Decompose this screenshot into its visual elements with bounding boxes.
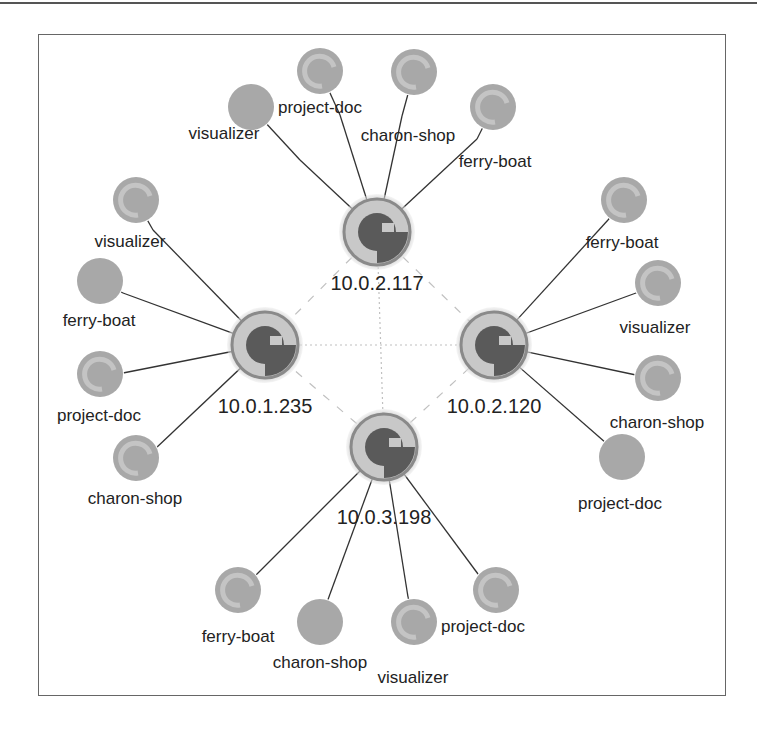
leaf-label: project-doc	[441, 617, 526, 636]
leaf-node[interactable]: ferry-boat	[202, 566, 275, 646]
leaf-node[interactable]: charon-shop	[610, 354, 705, 432]
hub-node[interactable]: 10.0.1.235	[218, 307, 313, 417]
hub-notch	[270, 336, 282, 345]
leaf-circle-icon	[297, 599, 343, 645]
leaf-label: charon-shop	[610, 413, 705, 432]
hub-nodes: 10.0.2.11710.0.1.23510.0.2.12010.0.3.198	[218, 194, 542, 528]
leaf-label: ferry-boat	[459, 152, 532, 171]
hub-notch	[499, 336, 511, 345]
leaf-node[interactable]: charon-shop	[88, 434, 183, 508]
leaf-node[interactable]: visualizer	[378, 598, 449, 687]
leaf-label: project-doc	[278, 98, 363, 117]
leaf-node[interactable]: visualizer	[95, 176, 166, 251]
hub-notch	[389, 438, 401, 447]
hub-label: 10.0.2.117	[330, 272, 423, 294]
leaf-label: ferry-boat	[63, 311, 136, 330]
leaf-node[interactable]: visualizer	[189, 83, 275, 143]
leaf-node[interactable]: visualizer	[620, 259, 691, 337]
network-graph: visualizerproject-doccharon-shopferry-bo…	[0, 0, 757, 729]
hub-notch	[382, 223, 394, 232]
leaf-node[interactable]: project-doc	[578, 433, 663, 513]
leaf-node[interactable]: project-doc	[57, 350, 142, 425]
leaf-node[interactable]: ferry-boat	[586, 176, 659, 252]
leaf-label: charon-shop	[88, 489, 183, 508]
hub-label: 10.0.3.198	[337, 506, 432, 528]
hub-node[interactable]: 10.0.2.120	[447, 307, 542, 417]
leaf-circle-icon	[599, 434, 645, 480]
leaf-node[interactable]: ferry-boat	[459, 83, 532, 171]
leaf-label: ferry-boat	[202, 627, 275, 646]
leaf-edges	[100, 71, 658, 622]
hub-node[interactable]: 10.0.2.117	[330, 194, 423, 294]
leaf-node[interactable]: project-doc	[278, 47, 363, 117]
leaf-node[interactable]: charon-shop	[273, 598, 368, 672]
hub-label: 10.0.1.235	[218, 395, 313, 417]
leaf-label: project-doc	[578, 494, 663, 513]
leaf-label: visualizer	[620, 318, 691, 337]
hub-label: 10.0.2.120	[447, 395, 542, 417]
leaf-label: ferry-boat	[586, 233, 659, 252]
leaf-label: charon-shop	[361, 126, 456, 145]
hub-node[interactable]: 10.0.3.198	[337, 409, 432, 528]
leaf-label: project-doc	[57, 406, 142, 425]
leaf-label: visualizer	[378, 668, 449, 687]
leaf-node[interactable]: charon-shop	[361, 48, 456, 145]
leaf-circle-icon	[77, 258, 123, 304]
leaf-node[interactable]: project-doc	[441, 566, 526, 636]
leaf-label: visualizer	[189, 124, 260, 143]
leaf-label: visualizer	[95, 232, 166, 251]
leaf-label: charon-shop	[273, 653, 368, 672]
